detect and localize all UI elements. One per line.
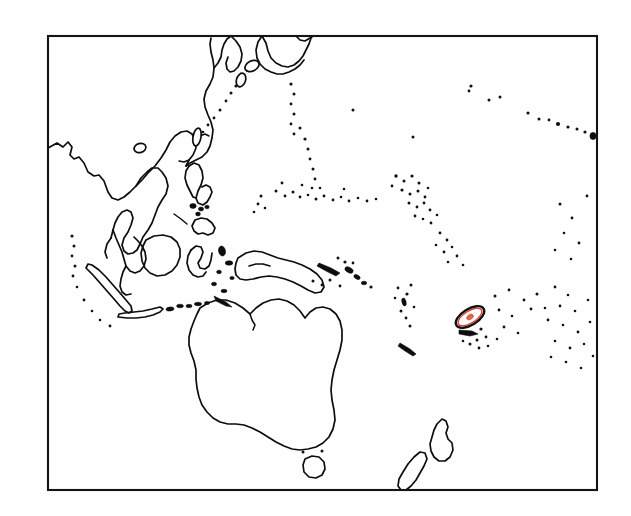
- map-figure: Oceania and Asia-Pacific locator map Bla…: [0, 0, 631, 516]
- map-background: [0, 0, 631, 516]
- oceania-map: [0, 0, 631, 516]
